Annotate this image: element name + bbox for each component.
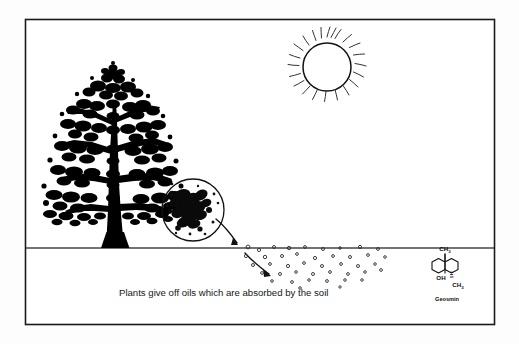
diagram-canvas: Plants give off oils which are absorbed … [0,0,519,344]
caption-text: Plants give off oils which are absorbed … [119,287,328,298]
figure-root: Plants give off oils which are absorbed … [0,0,519,344]
geosmin-label: Geosmin [435,296,460,302]
magnifier-circle [162,179,224,241]
hydroxyl-label: OH [436,274,446,281]
